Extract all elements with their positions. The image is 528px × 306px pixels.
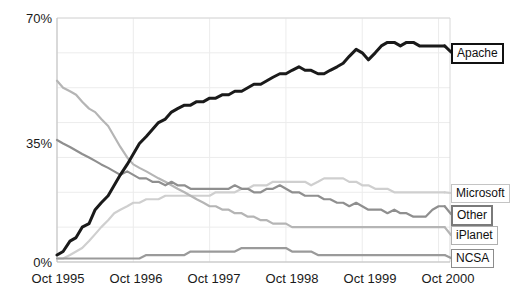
ytick-label-70: 70% — [8, 12, 52, 25]
xtick-label-oct-1999: Oct 1999 — [332, 272, 408, 285]
xtick-label-oct-1998: Oct 1998 — [254, 272, 330, 285]
series-label-ncsa: NCSA — [451, 249, 494, 268]
xtick-label-oct-2000: Oct 2000 — [410, 272, 486, 285]
server-share-line-chart: 70% 35% 0% Oct 1995 Oct 1996 Oct 1997 Oc… — [0, 0, 528, 306]
xtick-label-oct-1996: Oct 1996 — [98, 272, 174, 285]
ytick-label-0: 0% — [8, 256, 52, 269]
xtick-label-oct-1995: Oct 1995 — [20, 272, 96, 285]
ytick-label-35: 35% — [8, 137, 52, 150]
series-label-apache: Apache — [451, 43, 504, 64]
xtick-label-oct-1997: Oct 1997 — [176, 272, 252, 285]
series-label-other: Other — [451, 205, 493, 226]
plot-area — [0, 0, 528, 306]
series-label-iplanet: iPlanet — [451, 226, 498, 245]
series-label-microsoft: Microsoft — [451, 184, 510, 203]
